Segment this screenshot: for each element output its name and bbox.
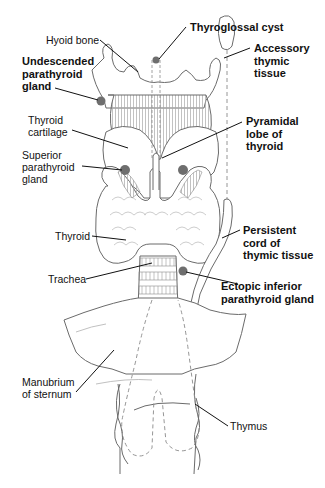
label-text: Undescended <box>22 55 94 68</box>
sternum-border <box>134 403 190 410</box>
label-superior-parathyroid-gland: Superior parathyroid gland <box>22 149 75 185</box>
label-text: Persistent <box>243 224 313 237</box>
label-text: thymic <box>254 55 310 68</box>
label-text: tissue <box>254 67 310 80</box>
label-text: of sternum <box>22 388 75 400</box>
sternum-body <box>115 374 200 474</box>
label-trachea: Trachea <box>48 273 86 285</box>
label-text: Superior <box>22 149 75 161</box>
label-text: Thyroid <box>55 230 90 242</box>
label-text: cartilage <box>28 126 68 138</box>
label-hyoid-bone: Hyoid bone <box>46 34 99 46</box>
label-text: parathyroid gland <box>221 293 314 306</box>
label-text: Pyramidal <box>246 115 299 128</box>
label-text: Accessory <box>254 42 310 55</box>
label-text: parathyroid <box>22 68 94 81</box>
label-text: lobe of <box>246 128 299 141</box>
label-thymus: Thymus <box>230 420 267 432</box>
label-pyramidal-lobe-of-thyroid: Pyramidal lobe of thyroid <box>246 115 299 153</box>
label-text: gland <box>22 80 94 93</box>
label-persistent-cord-of-thymic-tissue: Persistent cord of thymic tissue <box>243 224 313 262</box>
thyroglossal-cyst <box>153 57 160 64</box>
ectopic-inferior-parathyroid <box>179 267 188 276</box>
label-text: thymic tissue <box>243 249 313 262</box>
label-text: Thyroid <box>28 114 68 126</box>
label-manubrium-of-sternum: Manubrium of sternum <box>22 376 75 400</box>
superior-parathyroid-right <box>178 165 188 175</box>
thymus-lobe-left <box>116 384 128 464</box>
label-undescended-parathyroid-gland: Undescended parathyroid gland <box>22 55 94 93</box>
label-text: Hyoid bone <box>46 34 99 46</box>
label-thyroid-cartilage: Thyroid cartilage <box>28 114 68 138</box>
label-text: Thyroglossal cyst <box>190 21 284 34</box>
label-text: parathyroid <box>22 161 75 173</box>
label-text: Ectopic inferior <box>221 280 314 293</box>
label-text: cord of <box>243 237 313 250</box>
label-text: Manubrium <box>22 376 75 388</box>
manubrium <box>64 298 246 374</box>
label-text: gland <box>22 173 75 185</box>
label-thyroid: Thyroid <box>55 230 90 242</box>
label-text: Thymus <box>230 420 267 432</box>
label-text: thyroid <box>246 140 299 153</box>
label-accessory-thymic-tissue: Accessory thymic tissue <box>254 42 310 80</box>
leader-thyroglossal <box>159 27 186 59</box>
undescended-parathyroid-gland <box>97 97 106 106</box>
label-thyroglossal-cyst: Thyroglossal cyst <box>190 21 284 34</box>
label-text: Trachea <box>48 273 86 285</box>
pyramidal-lobe <box>153 153 159 190</box>
label-ectopic-inferior-parathyroid-gland: Ectopic inferior parathyroid gland <box>221 280 314 305</box>
